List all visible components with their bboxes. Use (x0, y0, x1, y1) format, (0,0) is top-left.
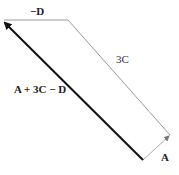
neg-d-label: −D (30, 6, 44, 17)
three-c-vector (68, 20, 170, 135)
a-label: A (161, 152, 169, 163)
three-c-label: 3C (116, 54, 129, 65)
resultant-label: A + 3C − D (14, 84, 66, 95)
